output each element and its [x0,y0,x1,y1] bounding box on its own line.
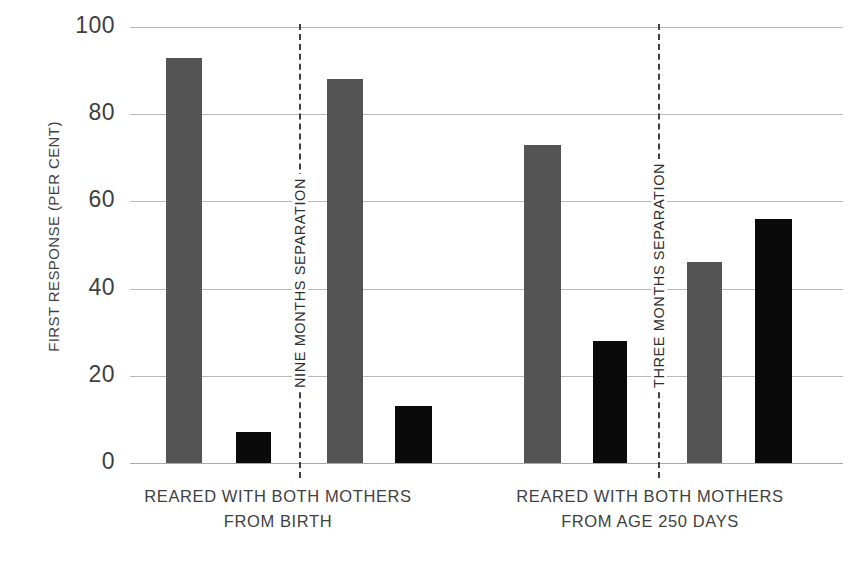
bar-group2-bar1 [524,145,561,463]
x-group-label-2-line1: REARED WITH BOTH MOTHERS [516,487,783,505]
bar-group1-bar3 [327,79,363,463]
x-group-label-1: REARED WITH BOTH MOTHERS FROM BIRTH [88,484,468,534]
bars-layer [0,0,859,567]
bar-group2-bar4 [755,219,792,463]
bar-group2-bar2 [593,341,627,463]
bar-group1-bar2 [236,432,271,463]
x-group-label-2: REARED WITH BOTH MOTHERS FROM AGE 250 DA… [460,484,840,534]
bar-group1-bar4 [395,406,432,463]
x-group-label-1-line2: FROM BIRTH [88,509,468,534]
x-group-label-2-line2: FROM AGE 250 DAYS [460,509,840,534]
separator-label-1: NINE MONTHS SEPARATION [292,174,308,392]
separator-label-2: THREE MONTHS SEPARATION [651,159,667,392]
bar-group1-bar1 [166,58,202,463]
bar-group2-bar3 [687,262,722,463]
bar-chart: FIRST RESPONSE (PER CENT) 100806040200 N… [0,0,859,567]
x-group-label-1-line1: REARED WITH BOTH MOTHERS [144,487,411,505]
